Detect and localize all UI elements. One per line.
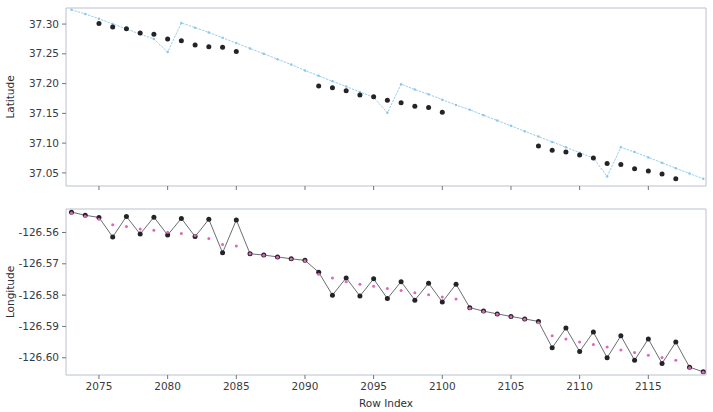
data-point [193, 42, 198, 47]
data-point [412, 104, 417, 109]
data-point [139, 228, 142, 231]
data-point [262, 254, 265, 257]
data-point [606, 175, 609, 178]
longitude-panel: -126.60-126.59-126.58-126.57-126.5620752… [4, 209, 706, 409]
series-filtered [96, 21, 678, 181]
data-point [290, 258, 293, 261]
data-point [206, 217, 211, 222]
data-point [357, 92, 362, 97]
data-point [565, 146, 568, 149]
data-point [304, 69, 307, 72]
series-raw [69, 210, 706, 375]
data-point [386, 112, 389, 115]
data-point [673, 176, 678, 181]
y-tick-label: -126.57 [18, 257, 59, 269]
series-smoothed [70, 212, 705, 374]
data-point [413, 291, 416, 294]
data-point [646, 336, 651, 341]
x-tick-label: 2100 [429, 380, 456, 392]
data-point [427, 293, 430, 296]
data-point [399, 100, 404, 105]
data-point [592, 343, 595, 346]
data-point [455, 104, 458, 107]
data-point [440, 300, 445, 305]
x-tick-label: 2085 [223, 380, 250, 392]
data-point [124, 214, 129, 219]
data-point [414, 88, 417, 91]
data-point [152, 229, 155, 232]
data-layer [69, 210, 706, 375]
data-point [165, 36, 170, 41]
data-point [316, 83, 321, 88]
data-point [619, 348, 622, 351]
y-axis-title: Longitude [4, 266, 16, 318]
data-point [151, 32, 156, 37]
data-point [551, 141, 554, 144]
data-point [153, 38, 156, 41]
data-point [537, 135, 540, 138]
data-point [523, 130, 526, 133]
data-point [96, 21, 101, 26]
data-point [385, 98, 390, 103]
data-point [331, 80, 334, 83]
data-point [647, 156, 650, 159]
y-tick-label: 37.20 [29, 77, 59, 89]
data-point [441, 296, 444, 299]
data-point [468, 307, 471, 310]
data-point [344, 275, 349, 280]
y-tick-label: 37.30 [29, 18, 59, 30]
data-point [660, 361, 665, 366]
y-tick-label: 37.10 [29, 137, 59, 149]
data-point [330, 85, 335, 90]
data-point [276, 256, 279, 259]
data-point [303, 259, 306, 262]
series-line-dotted [71, 10, 703, 179]
data-point [97, 218, 100, 221]
x-tick-label: 2105 [498, 380, 525, 392]
data-point [550, 148, 555, 153]
data-point [357, 294, 362, 299]
data-point [577, 349, 582, 354]
data-point [371, 276, 376, 281]
data-point [620, 146, 623, 149]
data-point [385, 296, 390, 301]
data-point [661, 162, 664, 165]
data-point [563, 150, 568, 155]
y-tick-label: -126.58 [18, 289, 59, 301]
data-point [180, 232, 183, 235]
data-point [441, 98, 444, 101]
x-tick-label: 2110 [566, 380, 593, 392]
y-tick-label: 37.15 [29, 107, 59, 119]
data-point [496, 313, 499, 316]
data-point [166, 51, 169, 54]
x-axis-title: Row Index [359, 397, 413, 409]
y-tick-label: -126.56 [18, 226, 59, 238]
data-point [426, 281, 431, 286]
data-point [330, 293, 335, 298]
data-point [317, 75, 320, 78]
data-point [180, 22, 183, 25]
data-point [263, 53, 266, 56]
data-point [675, 167, 678, 170]
y-tick-label: 37.05 [29, 167, 59, 179]
data-point [358, 283, 361, 286]
data-point [70, 212, 73, 215]
data-point [110, 25, 115, 30]
y-axis-title: Latitude [4, 75, 16, 118]
data-point [427, 93, 430, 96]
latitude-panel: 37.0537.1037.1537.2037.2537.30Latitude [4, 8, 706, 190]
data-point [660, 172, 665, 177]
data-point [344, 88, 349, 93]
axes-spines [66, 209, 706, 375]
data-point [551, 334, 554, 337]
series-raw [70, 9, 704, 181]
data-point [646, 169, 651, 174]
data-point [234, 217, 239, 222]
data-point [674, 359, 677, 362]
data-point [331, 276, 334, 279]
data-point [455, 297, 458, 300]
data-point [482, 310, 485, 313]
data-point [111, 223, 114, 226]
data-point [125, 225, 128, 228]
figure-canvas: 37.0537.1037.1537.2037.2537.30Latitude-1… [0, 0, 713, 412]
